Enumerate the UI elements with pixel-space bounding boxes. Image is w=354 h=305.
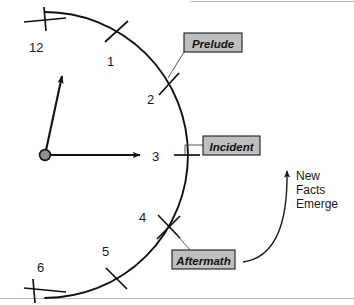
annotation-line-emerge: Emerge	[296, 197, 338, 211]
tick-mark-6	[24, 288, 66, 292]
phase-box-aftermath-label: Aftermath	[175, 255, 230, 267]
phase-box-incident[interactable]: Incident	[203, 136, 260, 155]
clock-numeral-3: 3	[152, 149, 159, 164]
annotation-line-new: New	[296, 169, 320, 183]
clock-numeral-2: 2	[147, 92, 154, 107]
new-facts-emerge-arrow	[243, 171, 287, 262]
phase-box-incident-label: Incident	[209, 141, 254, 153]
diagram-canvas: 12 1 2 3 4 5 6 Prelude Incident Aftermat…	[0, 0, 354, 305]
leader-line-prelude	[168, 52, 184, 78]
tick-mark-1	[105, 21, 128, 42]
tick-mark-5	[106, 268, 127, 289]
leader-line-aftermath	[177, 235, 190, 250]
tick-cross-6	[33, 279, 35, 303]
phase-box-prelude-label: Prelude	[192, 38, 235, 50]
clock-numeral-5: 5	[102, 244, 109, 259]
annotation-line-facts: Facts	[296, 183, 325, 197]
clock-center-hub	[40, 150, 51, 161]
clock-hour-hand	[45, 76, 62, 155]
incident-clock-diagram: 12 1 2 3 4 5 6 Prelude Incident Aftermat…	[0, 0, 354, 305]
clock-numeral-4: 4	[139, 210, 146, 225]
clock-numeral-6: 6	[37, 260, 44, 275]
phase-box-aftermath[interactable]: Aftermath	[172, 250, 235, 269]
clock-numeral-12: 12	[29, 40, 43, 55]
phase-box-prelude[interactable]: Prelude	[184, 33, 242, 52]
clock-numeral-1: 1	[107, 54, 114, 69]
tick-cross-12	[44, 7, 46, 31]
